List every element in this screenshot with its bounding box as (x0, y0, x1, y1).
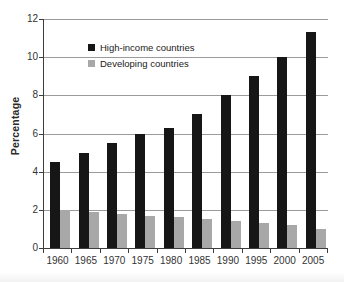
y-tick-label: 10 (14, 51, 38, 63)
bar-high-income-countries (277, 57, 287, 248)
bar-developing-countries (316, 229, 326, 248)
bar-high-income-countries (79, 153, 89, 248)
bar-chart: Percentage 024681012 High-income countri… (0, 0, 344, 282)
x-axis-tick (242, 249, 243, 253)
bar-high-income-countries (164, 128, 174, 248)
bar-developing-countries (117, 214, 127, 248)
bar-group-2005 (302, 19, 330, 248)
legend-label: Developing countries (100, 59, 189, 68)
bar-developing-countries (60, 210, 70, 248)
bar-developing-countries (202, 219, 212, 248)
bar-high-income-countries (221, 95, 231, 248)
bar-high-income-countries (192, 114, 202, 248)
x-tick-label: 1960 (43, 255, 72, 266)
x-tick-label: 1970 (100, 255, 129, 266)
y-tick-label: 12 (14, 13, 38, 25)
y-tick-label: 8 (14, 89, 38, 101)
x-axis-tick (327, 249, 328, 253)
bar-developing-countries (259, 223, 269, 248)
x-axis-tick (185, 249, 186, 253)
x-axis-tick (100, 249, 101, 253)
x-axis-tick (43, 249, 44, 253)
plot-area: High-income countriesDeveloping countrie… (43, 19, 328, 249)
legend: High-income countriesDeveloping countrie… (88, 43, 195, 75)
x-axis-tick (71, 249, 72, 253)
bar-high-income-countries (306, 32, 316, 248)
legend-label: High-income countries (100, 43, 195, 52)
x-tick-label: 1985 (185, 255, 214, 266)
bar-developing-countries (287, 225, 297, 248)
x-axis-tick (299, 249, 300, 253)
legend-swatch-high-income-countries (88, 44, 95, 51)
x-axis-tick (157, 249, 158, 253)
bar-developing-countries (89, 212, 99, 248)
x-tick-label: 1965 (71, 255, 100, 266)
scan-artifact (0, 272, 344, 282)
legend-item-high-income-countries: High-income countries (88, 43, 195, 52)
bar-group-2000 (273, 19, 301, 248)
y-tick-label: 6 (14, 128, 38, 140)
x-axis-tick (213, 249, 214, 253)
bar-high-income-countries (107, 143, 117, 248)
x-axis-tick (128, 249, 129, 253)
bar-developing-countries (231, 221, 241, 248)
x-tick-label: 2005 (299, 255, 328, 266)
x-tick-label: 2000 (270, 255, 299, 266)
x-tick-label: 1995 (242, 255, 271, 266)
bar-high-income-countries (50, 162, 60, 248)
legend-item-developing-countries: Developing countries (88, 59, 195, 68)
bar-developing-countries (174, 217, 184, 248)
y-tick-label: 0 (14, 242, 38, 254)
x-tick-label: 1975 (128, 255, 157, 266)
x-tick-label: 1980 (157, 255, 186, 266)
bar-high-income-countries (135, 134, 145, 249)
y-axis-title: Percentage (9, 97, 21, 156)
x-axis-tick (270, 249, 271, 253)
y-tick-label: 2 (14, 204, 38, 216)
bar-developing-countries (145, 216, 155, 248)
bar-group-1990 (216, 19, 244, 248)
bar-group-1995 (245, 19, 273, 248)
legend-swatch-developing-countries (88, 60, 95, 67)
bar-high-income-countries (249, 76, 259, 248)
x-tick-label: 1990 (213, 255, 242, 266)
bar-group-1960 (46, 19, 74, 248)
y-tick-label: 4 (14, 166, 38, 178)
